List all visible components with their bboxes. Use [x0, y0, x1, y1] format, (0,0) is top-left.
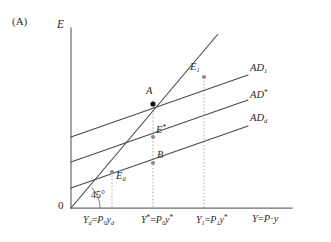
- xtick-label-Ystar: Y*=P0y*: [141, 215, 173, 226]
- angle-label-45: 45°: [91, 190, 105, 200]
- xtick-label-Y1: Y1=P1y*: [196, 215, 228, 226]
- curve-label-ADd: ADd: [250, 113, 267, 124]
- origin-label: 0: [58, 200, 64, 211]
- point-A: [150, 101, 155, 106]
- x-axis-title-y: y: [274, 213, 279, 224]
- point-label-A: A: [146, 86, 152, 97]
- point-label-Estar-sup: *: [162, 123, 166, 132]
- diagram-canvas: [0, 0, 331, 242]
- point-label-Estar: E*: [156, 124, 166, 136]
- curve-label-ADstar-sup: *: [264, 88, 268, 97]
- keynesian-cross-figure: (A) E 0 45° Y=P·y AD1 AD* ADd A E1 E* B …: [0, 0, 331, 242]
- xtick-Y1-y-sup: *: [224, 214, 228, 222]
- x-axis-title: Y=P·y: [252, 214, 278, 225]
- point-Ed: [110, 170, 114, 174]
- curve-label-ADstar: AD*: [250, 89, 268, 101]
- point-label-Ed: Ed: [116, 171, 126, 182]
- point-label-Ed-sub: d: [122, 175, 125, 182]
- point-label-E1-sub: 1: [196, 66, 199, 73]
- xtick-Ystar-y-sup: *: [169, 214, 173, 222]
- y-axis-title: E: [57, 19, 64, 31]
- curve-label-ADstar-name: AD: [250, 89, 264, 100]
- point-E1: [202, 75, 206, 79]
- curve-label-AD1-name: AD: [250, 62, 264, 73]
- point-Estar: [151, 135, 155, 139]
- curve-label-AD1: AD1: [250, 63, 267, 74]
- xtick-label-Yd: Yd=P0yd: [83, 215, 114, 226]
- point-label-B-name: B: [157, 149, 163, 160]
- curve-label-ADd-sub: d: [264, 117, 267, 124]
- panel-tag: (A): [12, 16, 27, 27]
- point-label-B: B: [157, 150, 163, 161]
- point-B: [151, 161, 155, 165]
- xtick-Yd-y-sub: d: [111, 219, 114, 226]
- curve-label-AD1-sub: 1: [264, 67, 267, 74]
- curve-label-ADd-name: AD: [250, 112, 264, 123]
- point-label-A-name: A: [146, 85, 152, 96]
- point-label-E1: E1: [190, 62, 200, 73]
